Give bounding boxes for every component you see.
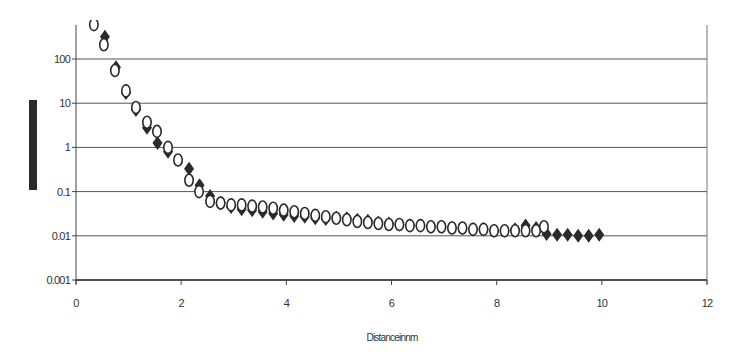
open-ellipse-marker: [374, 217, 382, 229]
y-tick-label: 1: [65, 141, 71, 153]
open-ellipse-marker: [395, 219, 403, 231]
x-tick-label: 2: [179, 297, 185, 309]
x-tick-label: 8: [494, 297, 500, 309]
open-ellipse-marker: [343, 214, 351, 226]
y-tick-label: 0.001: [46, 274, 70, 286]
open-circles-series: [90, 19, 549, 237]
open-ellipse-marker: [406, 220, 414, 232]
open-ellipse-marker: [258, 201, 266, 213]
filled-diamond-marker: [584, 229, 594, 243]
y-tick-label: 100: [54, 53, 71, 65]
open-ellipse-marker: [280, 204, 288, 216]
x-tick-label: 10: [597, 297, 608, 309]
open-ellipse-marker: [100, 39, 108, 51]
open-ellipse-marker: [301, 207, 309, 219]
open-ellipse-marker: [490, 225, 498, 237]
open-ellipse-marker: [174, 154, 182, 166]
open-ellipse-marker: [322, 211, 330, 223]
open-ellipse-marker: [290, 206, 298, 218]
open-ellipse-marker: [195, 186, 203, 198]
open-ellipse-marker: [143, 116, 151, 128]
open-ellipse-marker: [385, 219, 393, 231]
open-ellipse-marker: [469, 223, 477, 235]
open-ellipse-marker: [458, 222, 466, 234]
open-ellipse-marker: [311, 209, 319, 221]
open-ellipse-marker: [353, 216, 361, 228]
y-tick-label: 10: [59, 97, 70, 109]
open-ellipse-marker: [216, 197, 224, 209]
filled-diamonds-series: [100, 30, 604, 243]
open-ellipse-marker: [132, 101, 140, 113]
x-tick-label: 6: [389, 297, 395, 309]
open-ellipse-marker: [511, 225, 519, 237]
open-ellipse-marker: [269, 202, 277, 214]
x-axis-title: Distanceinnm: [367, 332, 418, 343]
open-ellipse-marker: [416, 220, 424, 232]
open-ellipse-marker: [437, 221, 445, 233]
open-ellipse-marker: [206, 195, 214, 207]
open-ellipse-marker: [500, 225, 508, 237]
open-ellipse-marker: [90, 19, 98, 31]
x-tick-label: 4: [284, 297, 290, 309]
open-ellipse-marker: [521, 225, 529, 237]
open-ellipse-marker: [185, 174, 193, 186]
open-ellipse-marker: [364, 216, 372, 228]
x-tick-label: 12: [702, 297, 713, 309]
filled-diamond-marker: [594, 228, 604, 242]
open-ellipse-marker: [111, 64, 119, 76]
open-ellipse-marker: [122, 85, 130, 97]
scatter-chart: 0.0010.010.1110100 024681012 Distanceinn…: [0, 0, 736, 352]
open-ellipse-marker: [332, 212, 340, 224]
open-ellipse-marker: [237, 199, 245, 211]
filled-diamond-marker: [552, 228, 562, 242]
open-ellipse-marker: [427, 221, 435, 233]
gridlines: [76, 59, 707, 280]
open-ellipse-marker: [479, 223, 487, 235]
x-tick-label: 0: [73, 297, 79, 309]
y-tick-label: 0.1: [57, 186, 71, 198]
filled-diamond-marker: [563, 228, 573, 242]
y-axis-ticks: 0.0010.010.1110100: [46, 53, 76, 286]
filled-diamond-marker: [573, 229, 583, 243]
x-axis-ticks: 024681012: [73, 280, 713, 309]
filled-diamond-marker: [153, 136, 163, 150]
data-series: [90, 19, 605, 243]
open-ellipse-marker: [540, 221, 548, 233]
open-ellipse-marker: [153, 125, 161, 137]
open-ellipse-marker: [248, 200, 256, 212]
y-tick-label: 0.01: [52, 230, 71, 242]
open-ellipse-marker: [227, 199, 235, 211]
open-ellipse-marker: [164, 141, 172, 153]
open-ellipse-marker: [448, 222, 456, 234]
